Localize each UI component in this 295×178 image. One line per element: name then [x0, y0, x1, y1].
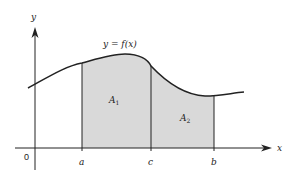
area-diagram: y x 0 y = f(x) a c b A1 A2	[0, 0, 295, 178]
curve-label: y = f(x)	[102, 39, 137, 49]
x-axis-label: x	[277, 143, 282, 153]
tick-label-c: c	[148, 157, 153, 167]
y-axis-label: y	[30, 12, 37, 22]
shaded-area	[82, 54, 214, 148]
tick-label-a: a	[79, 157, 84, 167]
origin-label: 0	[24, 152, 29, 162]
tick-label-b: b	[211, 157, 217, 167]
